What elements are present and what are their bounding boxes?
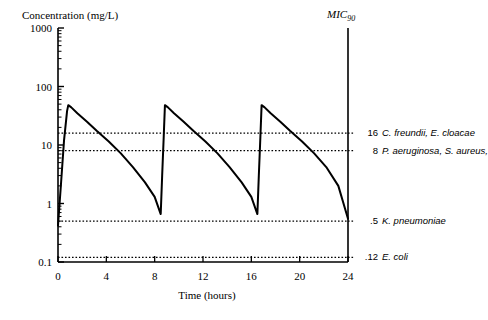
mic-value-label: .5 (356, 216, 378, 226)
mic-value-label: 16 (356, 128, 378, 138)
y-axis-tick-label: 10 (8, 140, 52, 151)
mic-value-label: .12 (356, 252, 378, 262)
x-axis-tick-label: 0 (38, 271, 78, 282)
mic-lines-group (58, 133, 355, 257)
x-axis-title: Time (hours) (137, 290, 277, 301)
x-axis-tick-label: 20 (280, 271, 320, 282)
x-axis-tick-label: 8 (135, 271, 175, 282)
y-axis-tick-label: 1000 (8, 23, 52, 34)
mic-organism-label: K. pneumoniae (382, 216, 446, 226)
mic-organism-label: P. aeruginosa, S. aureus, (382, 146, 488, 156)
x-axis-tick-label: 24 (328, 271, 368, 282)
mic-label-subscript: 90 (347, 14, 355, 23)
y-axis-tick-label: 1 (8, 199, 52, 210)
x-axis-tick-label: 4 (86, 271, 126, 282)
mic-value-label: 8 (356, 146, 378, 156)
concentration-curve-group (58, 105, 348, 225)
mic-organism-label: C. freundii, E. cloacae (382, 128, 475, 138)
y-axis-tick-label: 0.1 (8, 257, 52, 268)
mic-label-text: MIC (327, 8, 347, 20)
mic-organism-label: E. coli (382, 252, 408, 262)
x-axis-tick-label: 12 (183, 271, 223, 282)
y-axis-title: Concentration (mg/L) (22, 10, 118, 21)
y-axis-tick-label: 100 (8, 82, 52, 93)
secondary-axis-title: MIC90 (327, 9, 355, 23)
x-axis-tick-label: 16 (231, 271, 271, 282)
